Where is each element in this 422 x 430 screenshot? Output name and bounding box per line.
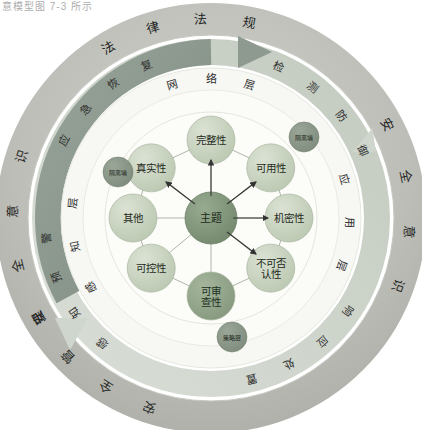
ring-char: 意 (5, 204, 20, 218)
badge-label: 隔离墙 (109, 169, 127, 177)
attribute-node-confidentiality[interactable]: 机密性 (265, 194, 313, 242)
attribute-node-label: 其他 (123, 212, 144, 224)
attribute-node-integrity[interactable]: 完整性 (187, 116, 235, 164)
attribute-node-label: 可用性 (256, 162, 286, 174)
attribute-nodes: 完整性真实性可用性其他机密性可控性不可否认性可审查性主题 (109, 116, 313, 320)
badge-bottom[interactable]: 策略层 (217, 322, 247, 352)
attribute-node-label: 可控性 (136, 262, 166, 274)
figure-caption-fragment: 意模型图 7-3 所示 (2, 0, 93, 13)
attribute-node-label: 机密性 (274, 212, 304, 224)
figure-canvas: 意模型图 7-3 所示 (0, 0, 422, 430)
attribute-node-label: 真实性 (136, 162, 166, 174)
attribute-node-label: 查性 (201, 296, 221, 308)
badge-left[interactable]: 隔离墙 (103, 157, 133, 187)
ring-char: 用 (343, 217, 356, 228)
ring-char: 络 (206, 72, 217, 86)
badge-label: 隔离墙 (295, 134, 313, 142)
attribute-node-other[interactable]: 其他 (109, 194, 157, 242)
ring-char: 层 (66, 197, 80, 209)
attribute-node-label: 完整性 (196, 134, 226, 146)
security-model-diagram: 完整性真实性可用性其他机密性可控性不可否认性可审查性主题 隔离墙隔离墙策略层 法… (0, 0, 422, 430)
center-node-label: 主题 (200, 212, 222, 225)
ring-char: 法 (194, 12, 208, 28)
attribute-node-availability[interactable]: 可用性 (247, 144, 295, 192)
badge-label: 策略层 (223, 334, 241, 342)
attribute-node-controllability[interactable]: 可控性 (127, 244, 175, 292)
attribute-node-authenticity[interactable]: 真实性 (127, 144, 175, 192)
attribute-node-label: 认性 (261, 268, 281, 280)
badge-right[interactable]: 隔离墙 (289, 122, 319, 152)
center-node[interactable]: 主题 (185, 192, 237, 244)
attribute-node-nonrepudiation[interactable]: 不可否认性 (247, 244, 295, 292)
ring-char: 警 (39, 232, 54, 245)
attribute-node-auditability[interactable]: 可审查性 (187, 272, 235, 320)
ring-char: 意 (401, 225, 417, 239)
